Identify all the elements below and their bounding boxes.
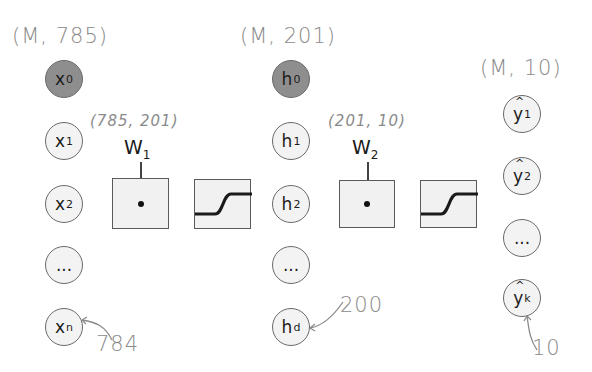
neural-network-diagram: (M, 785) (M, 201) (M, 10) (785, 201) (20… — [0, 0, 592, 372]
annotation-arrows — [0, 0, 592, 372]
